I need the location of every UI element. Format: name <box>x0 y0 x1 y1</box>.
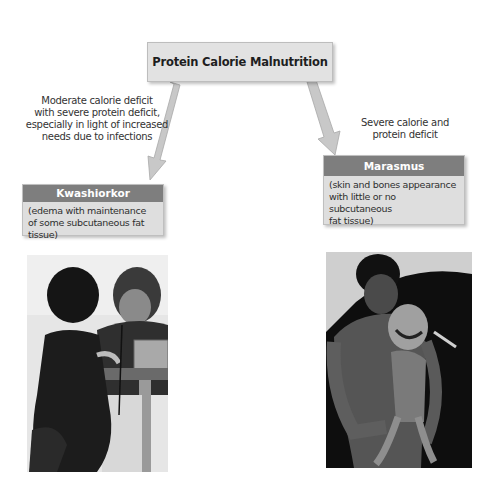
kwashiorkor-photo <box>27 255 168 472</box>
caption-line: protein deficit <box>340 129 470 141</box>
caption-line: needs due to infections <box>2 131 192 143</box>
marasmus-box: Marasmus (skin and bones appearance with… <box>323 155 465 225</box>
description-line: tissue) <box>28 229 158 241</box>
arrow-to-marasmus <box>307 80 340 155</box>
kwashiorkor-header: Kwashiorkor <box>23 185 163 202</box>
caption-line: especially in light of increased <box>2 119 192 131</box>
kwashiorkor-box: Kwashiorkor (edema with maintenance of s… <box>22 184 164 236</box>
caption-line: with severe protein deficit, <box>2 107 192 119</box>
caption-line: Severe calorie and <box>340 117 470 129</box>
marasmus-photo <box>326 252 472 468</box>
description-line: with little or no subcutaneous <box>329 191 459 215</box>
caption-line: Moderate calorie deficit <box>2 95 192 107</box>
marasmus-description: (skin and bones appearance with little o… <box>324 176 464 230</box>
marasmus-header: Marasmus <box>324 156 464 176</box>
marasmus-arrow-caption: Severe calorie and protein deficit <box>340 117 470 141</box>
description-line: (skin and bones appearance <box>329 179 459 191</box>
description-line: fat tissue) <box>329 215 459 227</box>
description-line: (edema with maintenance <box>28 205 158 217</box>
root-concept-title: Protein Calorie Malnutrition <box>152 55 327 69</box>
root-concept-box: Protein Calorie Malnutrition <box>147 42 333 82</box>
kwashiorkor-arrow-caption: Moderate calorie deficit with severe pro… <box>2 95 192 143</box>
kwashiorkor-description: (edema with maintenance of some subcutan… <box>23 202 163 244</box>
description-line: of some subcutaneous fat <box>28 217 158 229</box>
